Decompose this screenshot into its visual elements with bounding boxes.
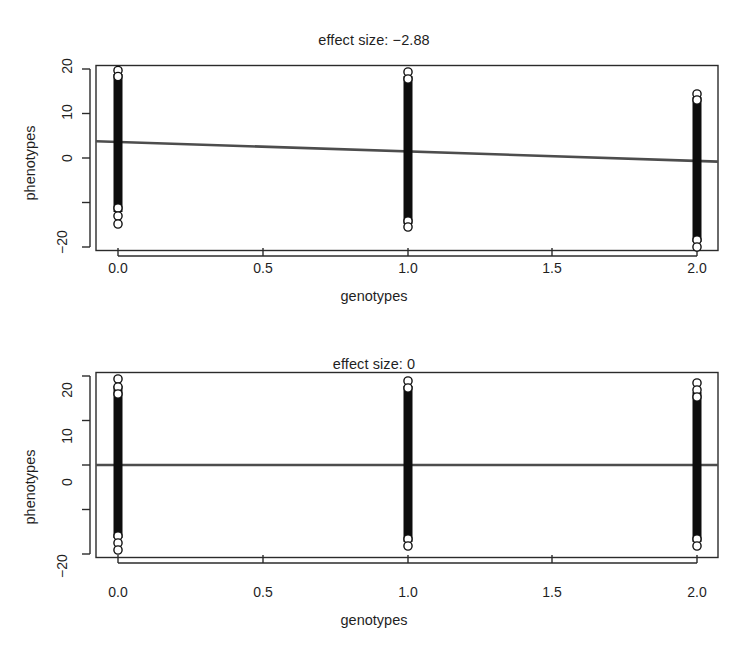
x-axis-top [118,248,697,256]
plot-area-bottom [0,324,748,648]
data-column-top-genotype2 [693,90,702,251]
data-column-bottom-genotype2 [693,379,702,550]
data-column-top-genotype0 [114,66,123,228]
figure-canvas: effect size: −2.88 phenotypes genotypes … [0,0,748,648]
data-column-bottom-genotype1 [404,377,413,550]
y-axis-top [82,69,90,247]
plot-panel-bottom: effect size: 0 phenotypes genotypes 20 1… [0,324,748,648]
data-column-bottom-genotype0 [114,375,123,554]
data-column-top-genotype1 [404,68,413,231]
plot-area-top [0,0,748,324]
y-axis-bottom [82,376,90,554]
x-axis-bottom [118,555,697,563]
plot-panel-top: effect size: −2.88 phenotypes genotypes … [0,0,748,324]
